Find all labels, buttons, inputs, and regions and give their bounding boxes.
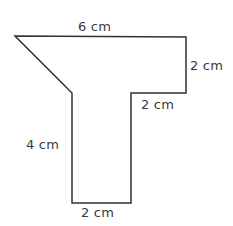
composite-shape-svg: [0, 0, 233, 226]
dimension-label-top: 6 cm: [78, 19, 111, 34]
dimension-label-right: 2 cm: [190, 58, 223, 73]
dimension-label-left: 4 cm: [26, 137, 59, 152]
dimension-label-bottom: 2 cm: [81, 205, 114, 220]
dimension-label-middle: 2 cm: [141, 97, 174, 112]
geometry-figure: 6 cm 2 cm 2 cm 4 cm 2 cm: [0, 0, 233, 226]
composite-polygon-outline: [15, 36, 186, 203]
